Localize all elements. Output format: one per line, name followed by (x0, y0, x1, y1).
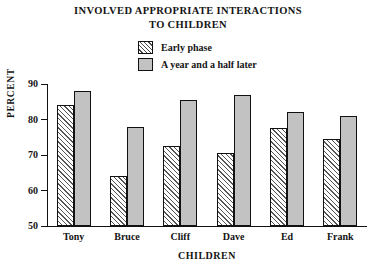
y-axis-tick-label: 90 (12, 78, 38, 90)
bar-early-phase (57, 105, 74, 226)
bar-year-and-half-later (74, 91, 91, 226)
y-axis-tick-label-text: 80 (14, 114, 38, 125)
bar-group (57, 84, 91, 226)
bar-groups (47, 84, 367, 226)
plot-area: PERCENT 5060708090 TonyBruceCliffDaveEdF… (0, 0, 376, 278)
y-axis-tick-label-text: 60 (14, 185, 38, 196)
bar-group (110, 84, 144, 226)
bar-year-and-half-later (234, 95, 251, 226)
bar-year-and-half-later (127, 127, 144, 226)
bar-year-and-half-later (340, 116, 357, 226)
bar-group (323, 84, 357, 226)
bar-early-phase (217, 153, 234, 226)
bar-early-phase (270, 128, 287, 226)
y-axis-title: PERCENT (6, 68, 16, 118)
bar-early-phase (323, 139, 340, 226)
bar-chart-figure: INVOLVED APPROPRIATE INTERACTIONS TO CHI… (0, 0, 376, 278)
x-axis-tick-label: Dave (207, 231, 260, 242)
bar-early-phase (163, 146, 180, 226)
x-axis-tick-label: Bruce (100, 231, 153, 242)
bar-group (217, 84, 251, 226)
x-axis-title: CHILDREN (47, 250, 367, 261)
bar-group (163, 84, 197, 226)
bar-year-and-half-later (287, 112, 304, 226)
y-axis-tick-label-text: 50 (14, 220, 38, 231)
y-axis-tick-label: 50 (12, 220, 38, 232)
y-axis-tick-label: 80 (12, 114, 38, 126)
x-axis-tick-label: Ed (260, 231, 313, 242)
y-axis-tick-label: 60 (12, 185, 38, 197)
x-axis-line (47, 226, 367, 227)
x-axis-tick-label: Tony (47, 231, 100, 242)
x-axis-tick-label: Cliff (154, 231, 207, 242)
bar-year-and-half-later (180, 100, 197, 226)
y-axis-tick-label: 70 (12, 149, 38, 161)
x-axis-tick-label: Frank (314, 231, 367, 242)
y-axis-tick-label-text: 90 (14, 78, 38, 89)
bar-group (270, 84, 304, 226)
y-axis-tick-label-text: 70 (14, 149, 38, 160)
bar-early-phase (110, 176, 127, 226)
